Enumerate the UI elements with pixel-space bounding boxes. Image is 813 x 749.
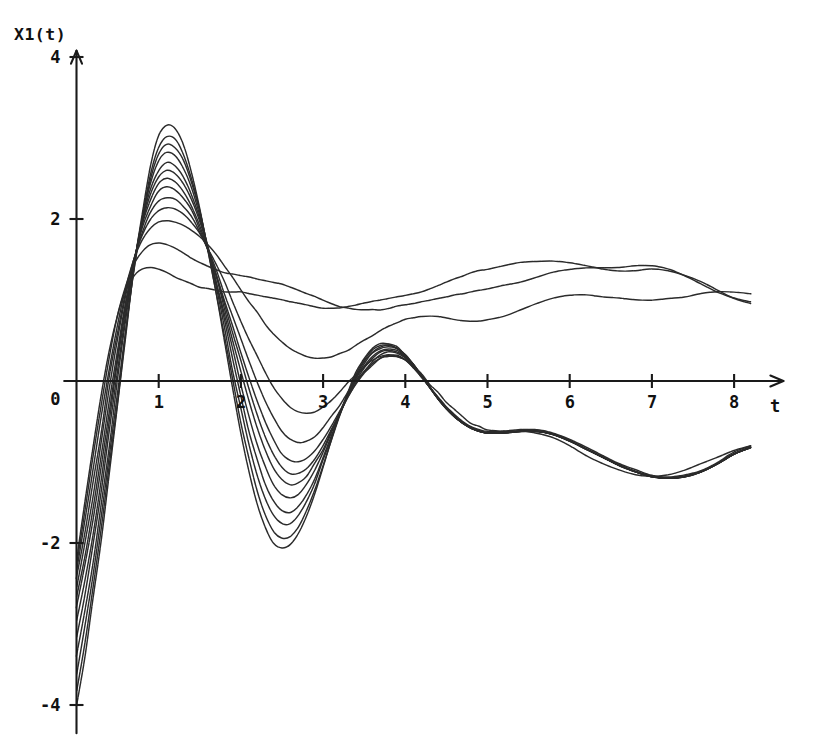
- line-chart-plot: 12345678420-2-4X1(t)t: [0, 0, 813, 749]
- y-axis-tick-label: -4: [40, 695, 60, 715]
- x-axis-tick-label: 7: [647, 392, 657, 412]
- x-axis-title: t: [770, 396, 780, 416]
- labels-layer: 12345678420-2-4X1(t)t: [14, 25, 780, 715]
- y-axis-tick-label: 2: [50, 209, 60, 229]
- chart-curve: [77, 125, 751, 705]
- x-axis-tick-label: 4: [400, 392, 410, 412]
- curves-layer: [76, 125, 751, 705]
- x-axis-tick-label: 3: [318, 392, 328, 412]
- y-axis-title: X1(t): [14, 25, 66, 44]
- x-axis-tick-label: 5: [483, 392, 493, 412]
- chart-curve: [77, 136, 751, 690]
- y-axis-tick-label: -2: [40, 533, 60, 553]
- figure-canvas: 12345678420-2-4X1(t)t: [0, 0, 813, 749]
- x-axis-tick-label: 2: [236, 392, 246, 412]
- x-axis-tick-label: 6: [565, 392, 575, 412]
- y-axis-tick-label: 4: [50, 47, 60, 67]
- x-axis-tick-label: 1: [154, 392, 164, 412]
- x-axis-tick-label: 8: [729, 392, 739, 412]
- y-axis-tick-label: 0: [50, 389, 60, 409]
